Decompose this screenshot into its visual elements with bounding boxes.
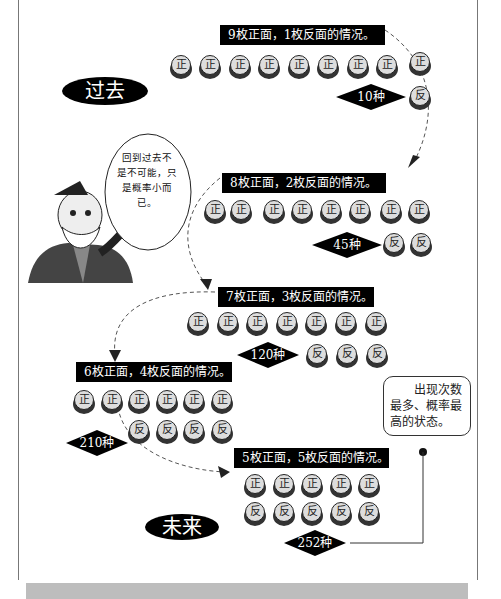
note-line: 最多、概率最 (390, 398, 464, 414)
heads-coin: 正 (273, 474, 295, 498)
heads-coin: 正 (347, 55, 369, 79)
speech-line: 是概率小而已。 (114, 180, 180, 210)
heads-coin: 正 (288, 55, 310, 79)
heads-coin: 正 (291, 200, 313, 224)
heads-coin: 正 (320, 200, 342, 224)
state-label-5-5: 5枚正面，5枚反面的情况。 (234, 448, 389, 468)
heads-coin: 正 (246, 312, 268, 336)
heads-coin: 正 (330, 474, 352, 498)
tails-coin: 反 (383, 233, 405, 257)
heads-coin: 正 (301, 474, 323, 498)
count-badge-45: 45种 (312, 232, 382, 258)
tails-coin: 反 (330, 502, 352, 526)
heads-coin: 正 (263, 200, 285, 224)
heads-coin: 正 (358, 474, 380, 498)
state-label-6-4: 6枚正面，4枚反面的情况。 (76, 362, 232, 382)
heads-coin: 正 (230, 200, 252, 224)
note-line: 出现次数 (390, 382, 464, 398)
heads-coin: 正 (349, 200, 371, 224)
heads-coin: 正 (217, 312, 239, 336)
state-label-9-1: 9枚正面，1枚反面的情况。 (220, 25, 385, 45)
tails-coin: 反 (366, 344, 388, 368)
speech-line: 回到过去不 (114, 150, 180, 165)
tails-coin: 反 (410, 233, 432, 257)
tails-coin: 反 (409, 86, 431, 110)
heads-coin: 正 (199, 55, 221, 79)
count-badge-252: 252种 (284, 530, 346, 556)
max-probability-note: 出现次数 最多、概率最 高的状态。 (383, 376, 471, 436)
state-label-7-3: 7枚正面，3枚反面的情况。 (218, 287, 374, 307)
future-label: 未来 (145, 514, 219, 540)
tails-coin: 反 (273, 502, 295, 526)
count-badge-10: 10种 (336, 84, 406, 110)
heads-coin: 正 (276, 312, 298, 336)
tails-coin: 反 (336, 344, 358, 368)
heads-coin: 正 (305, 312, 327, 336)
tails-coin: 反 (156, 420, 178, 444)
tails-coin: 反 (244, 502, 266, 526)
heads-coin: 正 (258, 55, 280, 79)
heads-coin: 正 (335, 312, 357, 336)
speech-line: 是不可能，只 (114, 165, 180, 180)
note-line: 高的状态。 (390, 414, 464, 430)
heads-coin: 正 (183, 390, 205, 414)
heads-coin: 正 (73, 390, 95, 414)
heads-coin: 正 (317, 55, 339, 79)
heads-coin: 正 (408, 200, 430, 224)
heads-coin: 正 (170, 55, 192, 79)
heads-coin: 正 (244, 474, 266, 498)
past-label: 过去 (62, 77, 148, 105)
tails-coin: 反 (183, 420, 205, 444)
tails-coin: 反 (301, 502, 323, 526)
heads-coin: 正 (376, 55, 398, 79)
heads-coin: 正 (365, 312, 387, 336)
tails-coin: 反 (306, 344, 328, 368)
count-badge-120: 120种 (237, 342, 299, 368)
heads-coin: 正 (187, 312, 209, 336)
heads-coin: 正 (101, 390, 123, 414)
heads-coin: 正 (211, 390, 233, 414)
heads-coin: 正 (204, 200, 226, 224)
heads-coin: 正 (156, 390, 178, 414)
tails-coin: 反 (211, 420, 233, 444)
state-label-8-2: 8枚正面，2枚反面的情况。 (222, 173, 386, 193)
speech-bubble-text: 回到过去不 是不可能，只 是概率小而已。 (114, 150, 180, 210)
tails-coin: 反 (128, 420, 150, 444)
heads-coin: 正 (409, 52, 431, 76)
heads-coin: 正 (229, 55, 251, 79)
tails-coin: 反 (358, 502, 380, 526)
count-badge-210: 210种 (66, 430, 128, 456)
heads-coin: 正 (380, 200, 402, 224)
heads-coin: 正 (128, 390, 150, 414)
